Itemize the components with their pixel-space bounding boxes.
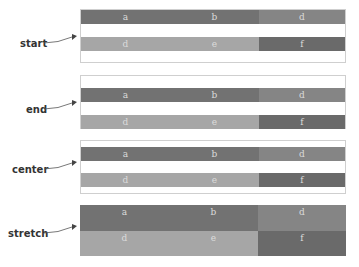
grid-row-1: a b d — [80, 205, 346, 231]
arrow-icon — [44, 100, 76, 112]
cell-label: f — [300, 37, 303, 51]
cell-d: d — [259, 147, 345, 161]
cell-b: b — [170, 10, 259, 24]
label-stretch: stretch — [8, 228, 48, 239]
cell-f: f — [259, 173, 345, 187]
cell-label: a — [123, 88, 128, 102]
grid-row-2: d e f — [81, 37, 345, 51]
cell-label: a — [123, 147, 128, 161]
grid-row-2: d e f — [81, 173, 345, 187]
cell-label: e — [211, 231, 216, 256]
cell-label: d — [123, 37, 129, 51]
panel-center: a b d d e f — [80, 140, 346, 194]
cell-label: f — [300, 173, 303, 187]
cell-d: d — [80, 231, 169, 256]
panel-stretch: a b d d e f — [80, 205, 346, 256]
cell-label: d — [299, 10, 305, 24]
cell-d: d — [81, 173, 170, 187]
cell-label: d — [299, 88, 305, 102]
cell-label: e — [212, 115, 217, 129]
arrow-icon — [44, 34, 76, 46]
cell-f: f — [258, 231, 346, 256]
cell-f: f — [259, 115, 345, 129]
grid-row-2: d e f — [81, 115, 345, 129]
cell-label: f — [300, 115, 303, 129]
cell-label: d — [123, 115, 129, 129]
cell-label: e — [212, 173, 217, 187]
cell-d: d — [258, 205, 346, 231]
grid-row-1: a b d — [81, 10, 345, 24]
grid-row-1: a b d — [81, 88, 345, 102]
arrow-icon — [44, 160, 76, 172]
cell-b: b — [170, 88, 259, 102]
cell-label: f — [300, 231, 303, 256]
cell-label: d — [122, 231, 128, 256]
cell-label: b — [211, 205, 217, 231]
cell-label: d — [123, 173, 129, 187]
cell-e: e — [170, 173, 259, 187]
cell-e: e — [170, 37, 259, 51]
cell-label: e — [212, 37, 217, 51]
cell-a: a — [81, 10, 170, 24]
cell-label: a — [123, 10, 128, 24]
cell-b: b — [169, 205, 258, 231]
arrow-icon — [44, 224, 76, 236]
cell-e: e — [169, 231, 258, 256]
cell-d: d — [81, 37, 170, 51]
cell-label: d — [299, 147, 305, 161]
cell-a: a — [81, 147, 170, 161]
cell-e: e — [170, 115, 259, 129]
cell-label: d — [299, 205, 305, 231]
cell-f: f — [259, 37, 345, 51]
cell-d: d — [259, 88, 345, 102]
cell-label: b — [212, 147, 218, 161]
cell-a: a — [81, 88, 170, 102]
label-center: center — [12, 164, 48, 175]
panel-start: a b d d e f — [80, 9, 346, 63]
panel-end: a b d d e f — [80, 75, 346, 129]
cell-d: d — [259, 10, 345, 24]
cell-b: b — [170, 147, 259, 161]
cell-label: b — [212, 88, 218, 102]
grid-row-1: a b d — [81, 147, 345, 161]
cell-a: a — [80, 205, 169, 231]
grid-row-2: d e f — [80, 231, 346, 256]
cell-d: d — [81, 115, 170, 129]
cell-label: a — [122, 205, 127, 231]
cell-label: b — [212, 10, 218, 24]
